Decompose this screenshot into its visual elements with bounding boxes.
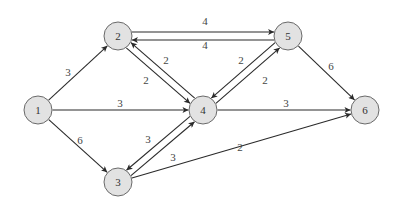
edge-weight-4-6: 3: [283, 97, 289, 109]
edge-weight-1-3: 6: [77, 134, 83, 146]
edge-weight-4-3: 3: [145, 133, 151, 145]
node-label: 2: [115, 30, 121, 42]
edge-3-to-4: [131, 122, 195, 176]
edge-weight-2-4: 2: [143, 74, 149, 86]
node-6: 6: [351, 96, 379, 124]
edge-weight-5-6: 6: [328, 60, 334, 72]
edge-4-to-2: [131, 43, 195, 99]
node-label: 6: [362, 104, 368, 116]
node-4: 4: [189, 96, 217, 124]
edge-weight-4-2: 2: [163, 54, 169, 66]
node-1: 1: [24, 96, 52, 124]
edge-weight-5-4: 2: [238, 54, 244, 66]
edge-weight-3-4: 3: [170, 151, 176, 163]
node-label: 5: [285, 30, 291, 42]
edge-weight-1-4: 3: [117, 97, 123, 109]
graph-diagram: 33644222263332 123456: [0, 0, 398, 210]
node-label: 1: [35, 104, 41, 116]
edge-5-to-4: [211, 43, 275, 99]
edge-4-to-5: [216, 48, 280, 104]
node-label: 4: [200, 104, 206, 116]
edge-1-to-3: [49, 120, 107, 173]
edge-weight-3-6: 2: [237, 141, 243, 153]
edge-2-to-4: [126, 48, 190, 104]
edge-4-to-3: [126, 116, 190, 170]
edge-weight-2-5: 4: [202, 15, 208, 27]
edge-5-to-6: [298, 46, 354, 100]
node-3: 3: [104, 168, 132, 196]
edge-weight-4-5: 2: [262, 74, 268, 86]
edge-weight-1-2: 3: [65, 66, 71, 78]
edge-1-to-2: [49, 46, 108, 100]
node-2: 2: [104, 22, 132, 50]
node-5: 5: [274, 22, 302, 50]
edge-weight-5-2: 4: [202, 39, 208, 51]
node-label: 3: [115, 176, 121, 188]
